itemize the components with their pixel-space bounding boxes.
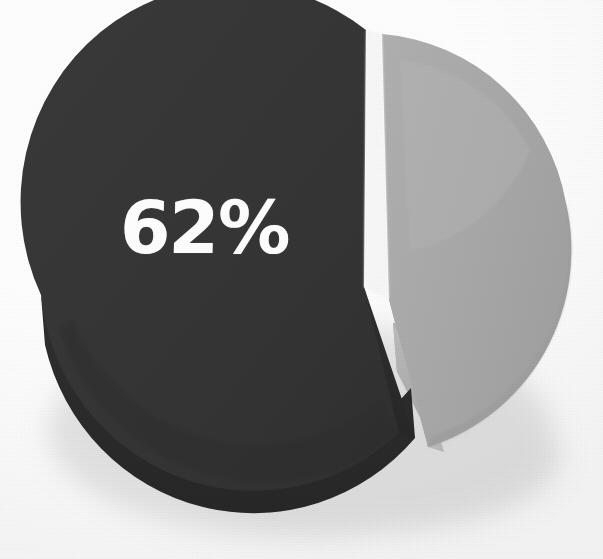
pie-chart-canvas: 62%: [0, 0, 603, 559]
pie-chart-figure: 62%: [0, 0, 603, 559]
pie-chart-graphic: [0, 0, 603, 559]
